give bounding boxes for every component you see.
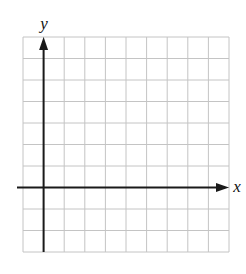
x-axis-label: x	[232, 177, 241, 196]
y-axis-label: y	[38, 14, 48, 33]
y-axis-arrowhead-icon	[39, 37, 48, 50]
grid-lines	[23, 37, 229, 252]
grid-svg: y x	[0, 0, 246, 274]
x-axis-arrowhead-icon	[216, 183, 229, 192]
coordinate-plane: y x	[0, 0, 246, 274]
